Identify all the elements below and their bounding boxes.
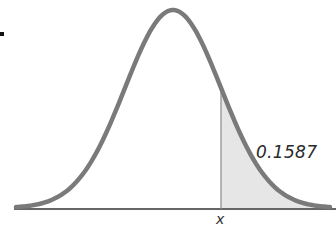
normal-curve-figure: 0.1587 x xyxy=(0,0,336,231)
cutoff-x-label: x xyxy=(216,211,224,227)
shaded-area-value: 0.1587 xyxy=(256,142,317,162)
normal-density-curve xyxy=(16,10,330,207)
normal-curve-plot xyxy=(0,0,336,231)
